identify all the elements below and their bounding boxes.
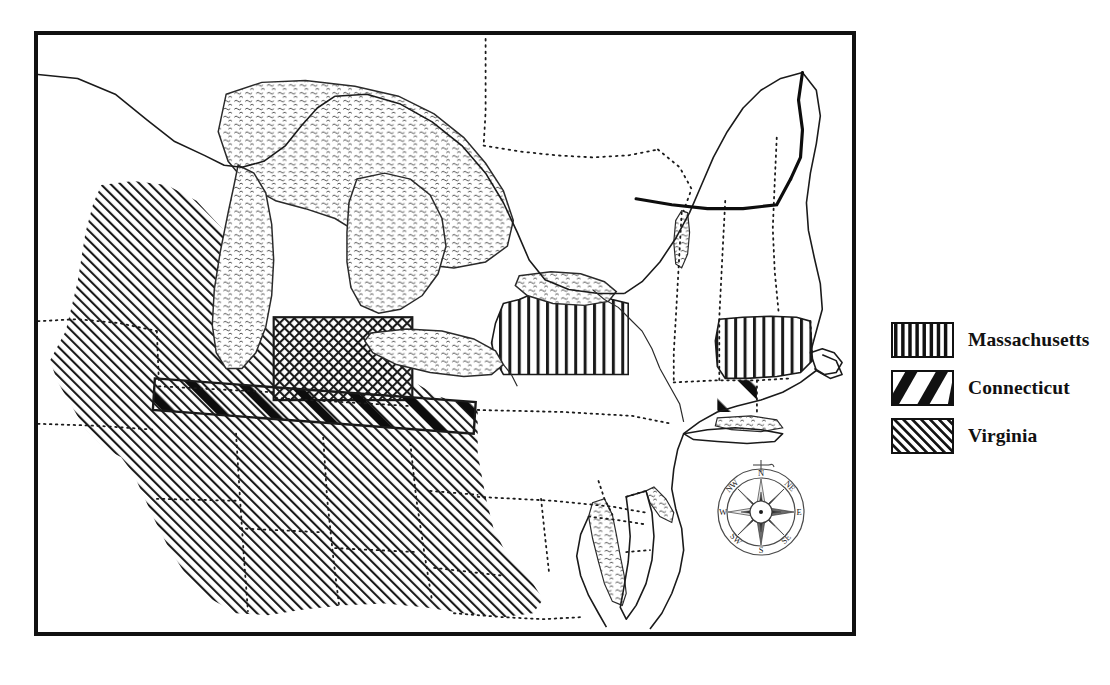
mass-proper-area (715, 316, 812, 378)
major-borders (636, 72, 802, 208)
compass-label-n: N (758, 468, 764, 478)
legend-swatch-virginia (891, 418, 954, 454)
map-legend: Massachusetts Connecticut (891, 316, 1106, 460)
canada-border (484, 39, 692, 211)
legend-swatch-massachusetts (891, 322, 954, 358)
connecticut-proper-area (717, 380, 757, 412)
vertical-bars-icon (893, 324, 952, 356)
compass-label-s: S (759, 545, 764, 555)
region-massachusetts-proper (715, 316, 812, 378)
chesapeake-bay (589, 499, 627, 606)
thick-diagonal-bars-icon (893, 372, 952, 404)
compass-center-dot (759, 510, 763, 514)
legend-item-massachusetts: Massachusetts (891, 316, 1106, 364)
legend-label-connecticut: Connecticut (968, 377, 1070, 399)
legend-swatch-connecticut (891, 370, 954, 406)
legend-item-virginia: Virginia (891, 412, 1106, 460)
legend-label-massachusetts: Massachusetts (968, 329, 1090, 351)
compass-label-w: W (719, 507, 727, 517)
compass-rose-graphic: N S E W NE NW SE SW (706, 452, 816, 567)
compass-rose: N S E W NE NW SE SW (706, 452, 816, 567)
compass-label-e: E (796, 507, 801, 517)
legend-item-connecticut: Connecticut (891, 364, 1106, 412)
map-figure: N S E W NE NW SE SW (0, 0, 1110, 685)
fine-diagonal-hatch-icon (893, 420, 952, 452)
legend-label-virginia: Virginia (968, 425, 1037, 447)
region-connecticut-proper (717, 380, 757, 412)
